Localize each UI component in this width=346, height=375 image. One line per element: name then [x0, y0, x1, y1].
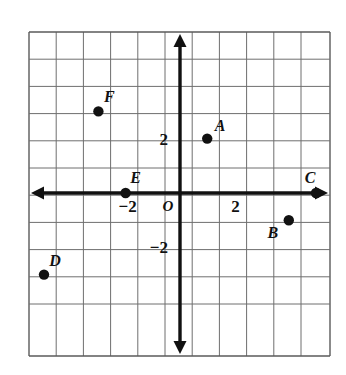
y-axis-up-arrow-icon [174, 34, 187, 47]
plotted-point-e [120, 188, 130, 198]
y-axis-tick-label: 2 [160, 130, 169, 149]
x-axis-left-arrow-icon [31, 187, 44, 200]
point-label-c: C [305, 169, 316, 186]
point-label-e: E [129, 169, 141, 186]
plotted-point-d [39, 269, 49, 279]
axes [31, 34, 328, 354]
origin-label: O [163, 198, 174, 214]
point-label-b: B [266, 224, 278, 241]
x-axis-tick-label: 2 [231, 197, 240, 216]
coordinate-plane-figure: −222−2O ABCDEF [0, 0, 346, 375]
plotted-point-c [311, 188, 321, 198]
point-label-d: D [48, 252, 61, 269]
coordinate-plane-svg: −222−2O ABCDEF [0, 0, 346, 375]
plotted-point-f [93, 106, 103, 116]
plotted-point-a [202, 133, 212, 143]
point-label-f: F [103, 88, 115, 105]
point-label-a: A [214, 117, 226, 134]
y-axis-down-arrow-icon [174, 341, 187, 354]
x-axis-tick-label: −2 [119, 197, 137, 216]
y-axis-tick-label: −2 [150, 238, 168, 257]
plotted-point-b [284, 215, 294, 225]
